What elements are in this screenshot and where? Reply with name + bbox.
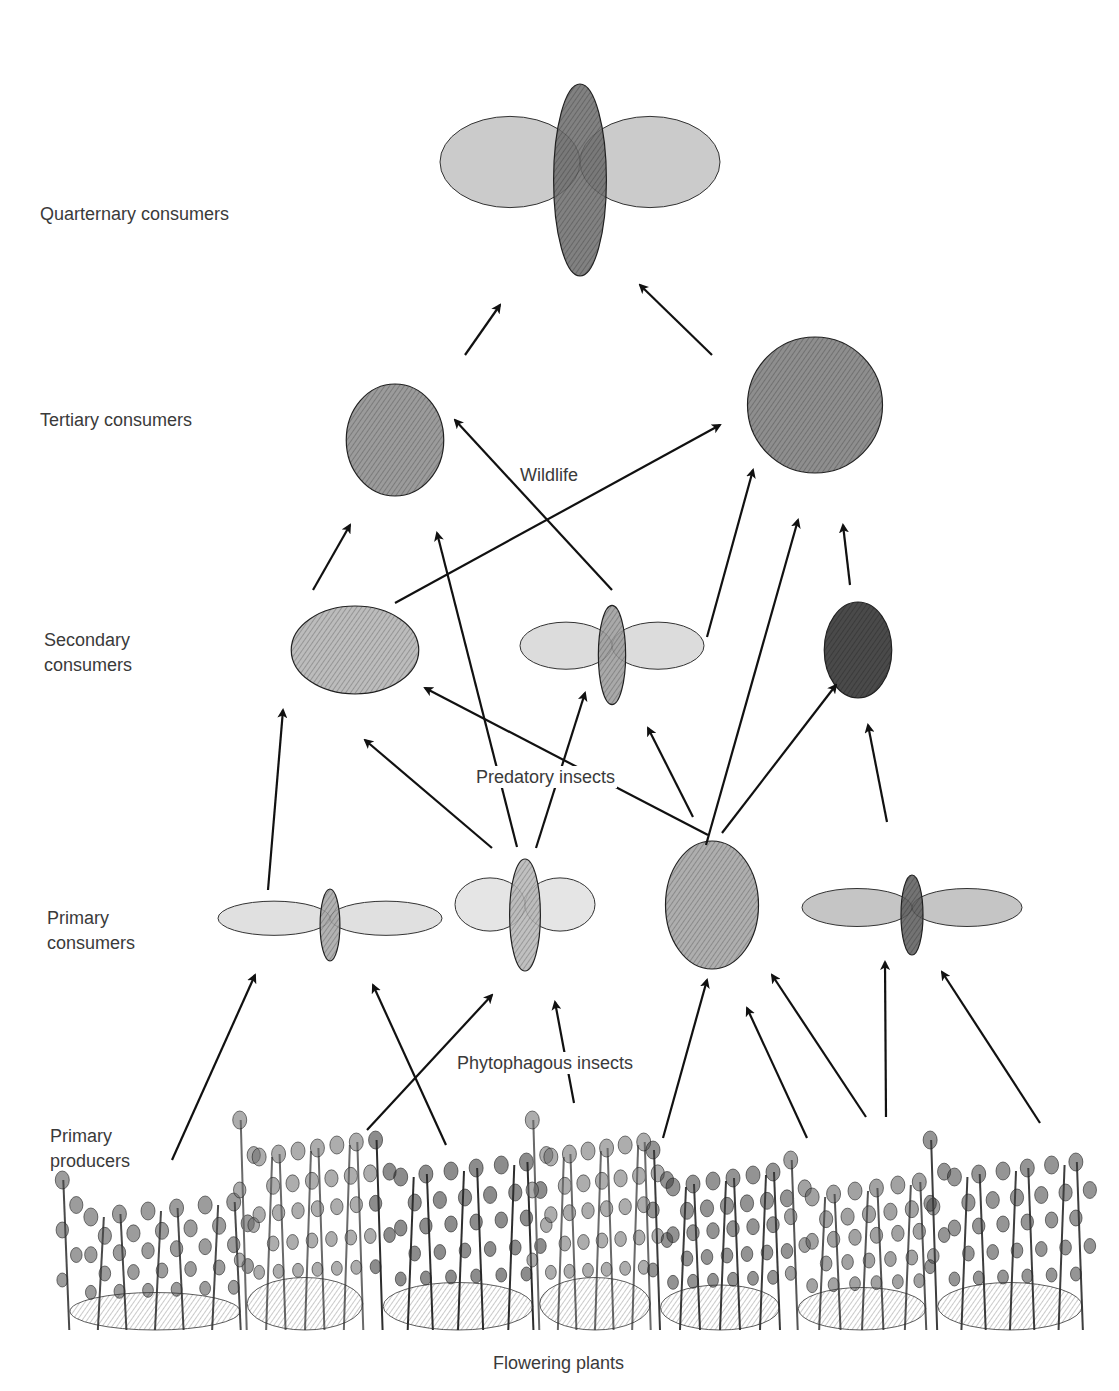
arrow-mosquito-to-mantis (365, 740, 492, 848)
group-label-predatory-insects: Predatory insects (474, 766, 617, 788)
arrow-cicada-to-mantis (268, 710, 283, 890)
arrow-plant7-to-moth (942, 972, 1040, 1123)
organism-plant4: Plant 4 (525, 1111, 664, 1330)
organism-plant7: Plant 7 (923, 1131, 1096, 1330)
arrow-plant6-to-moth (885, 962, 886, 1117)
organism-plant6: Plant 6 (784, 1151, 940, 1330)
arrow-plant6-to-bug (747, 1008, 807, 1138)
group-label-flowering-plants: Flowering plants (491, 1352, 626, 1374)
organism-cicada: Cicada (218, 889, 442, 961)
arrow-moth-to-beetle (868, 725, 887, 822)
arrow-plant3-to-cicada (373, 985, 446, 1145)
arrow-beetle-to-partridge (843, 525, 850, 585)
organism-plant3: Plant 3 (369, 1131, 547, 1330)
arrow-dragonfly-to-partridge (707, 470, 753, 637)
arrow-mosquito-to-frog (437, 533, 517, 847)
organism-moth: Moth (802, 875, 1022, 955)
organism-bug: Plant bug (666, 841, 759, 969)
level-label-secondary-consumers: Secondary consumers (44, 628, 132, 678)
arrow-bug-to-partridge (706, 520, 798, 845)
arrows-layer (172, 285, 1040, 1160)
arrow-frog-to-hawk (465, 305, 500, 355)
organism-dragonfly: Dragonfly (520, 605, 704, 704)
arrow-bug-to-dragonfly (648, 728, 693, 817)
organism-partridge: Partridge (748, 337, 883, 473)
arrow-mantis-to-frog (313, 525, 350, 590)
group-label-phytophagous-insects: Phytophagous insects (455, 1052, 635, 1074)
arrow-mantis-to-partridge (395, 425, 720, 603)
level-label-primary-consumers: Primary consumers (47, 906, 135, 956)
level-label-quaternary-consumers: Quarternary consumers (40, 202, 229, 227)
arrow-bug-to-beetle (722, 685, 836, 833)
level-label-primary-producers: Primary producers (50, 1124, 130, 1174)
organism-plant5: Plant 5 (646, 1141, 794, 1330)
organism-hawk: Hawk (440, 84, 720, 276)
arrow-plant1-to-cicada (172, 975, 255, 1160)
arrow-partridge-to-hawk (640, 285, 712, 355)
organism-plant1: Plant 1 (55, 1171, 254, 1330)
organisms-layer: HawkFrogPartridgePraying mantisDragonfly… (55, 84, 1096, 1330)
arrow-plant6-to-bug (772, 975, 866, 1117)
arrow-plant5-to-bug (663, 980, 707, 1138)
organism-mantis: Praying mantis (291, 606, 419, 694)
level-label-tertiary-consumers: Tertiary consumers (40, 408, 192, 433)
organism-frog: Frog (346, 384, 444, 496)
organism-beetle: Ground beetle (824, 602, 892, 698)
arrow-dragonfly-to-frog (455, 420, 612, 590)
group-label-wildlife: Wildlife (518, 464, 580, 486)
organism-mosquito: Crane fly (455, 859, 595, 971)
organism-plant2: Plant 2 (233, 1111, 377, 1330)
